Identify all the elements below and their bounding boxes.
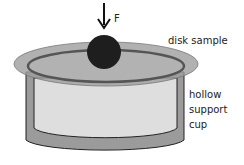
disk-sample-label: disk sample	[168, 35, 228, 47]
cup-label-line-1: hollow	[189, 89, 221, 101]
diagram-canvas	[0, 0, 244, 165]
force-label: F	[114, 13, 120, 25]
cup-label-line-2: support	[189, 104, 227, 116]
cup-label-line-3: cup	[189, 119, 207, 131]
loading-ball	[87, 35, 121, 69]
support-cup-cavity	[34, 78, 177, 138]
force-arrow-icon	[98, 3, 110, 28]
